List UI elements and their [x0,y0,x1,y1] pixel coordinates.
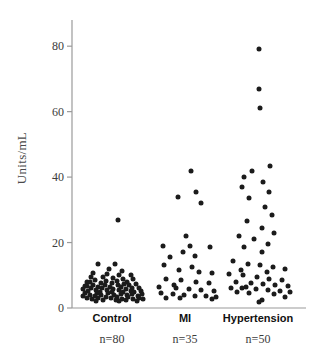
data-point [239,184,244,189]
data-point [247,291,252,296]
data-point [160,243,165,248]
data-point [272,292,277,297]
data-point [278,288,283,293]
data-point [267,276,272,281]
data-point [184,234,189,239]
data-point [257,300,262,305]
y-axis-label: Units/mL [14,108,30,208]
data-point [186,287,191,292]
y-axis-tick-label: 60 [40,106,64,118]
data-point [179,278,184,283]
data-point [192,253,197,258]
data-point [283,294,288,299]
data-point [227,271,232,276]
y-axis-tick-label: 20 [40,237,64,249]
data-point [260,282,265,287]
data-point [141,297,146,302]
data-point [269,212,274,217]
data-point [93,299,98,304]
data-point [241,273,246,278]
data-point [264,270,269,275]
data-point [259,250,264,255]
data-point [258,263,263,268]
data-point [194,279,199,284]
data-point [96,261,101,266]
data-point [265,242,270,247]
data-point [267,189,272,194]
data-point [228,285,233,290]
data-point [206,281,211,286]
data-point [190,265,195,270]
data-point [199,201,204,206]
data-point [283,266,288,271]
data-point [272,230,277,235]
data-point [263,204,268,209]
data-point [233,279,238,284]
data-point [252,237,257,242]
group-label-mi: MI [179,312,191,324]
data-point [285,283,290,288]
data-point [156,284,161,289]
data-point [260,180,265,185]
data-point [265,288,270,293]
data-point [210,296,215,301]
data-point [268,163,273,168]
data-point [257,86,262,91]
data-point [161,263,166,268]
data-point [279,278,284,283]
y-axis-tick-marks [67,46,72,308]
data-point [170,292,175,297]
data-point [288,289,293,294]
data-point [204,294,209,299]
data-point [210,270,215,275]
data-point [116,217,121,222]
data-point [247,196,252,201]
data-point [273,283,278,288]
data-point [211,288,216,293]
data-point [246,261,251,266]
data-point [178,296,183,301]
data-point [134,298,139,303]
data-point [117,299,122,304]
data-point [254,274,259,279]
dot-plot-figure: Units/mL 020406080 Controln=80MIn=35Hype… [0,0,319,358]
y-axis-tick-label: 80 [40,40,64,52]
data-point [239,286,244,291]
data-point [199,288,204,293]
y-axis-tick-label: 40 [40,171,64,183]
data-point [207,245,212,250]
data-point [164,276,169,281]
group-count-hypertension: n=50 [246,332,271,347]
data-point [253,287,258,292]
data-point [248,281,253,286]
data-point [101,297,106,302]
data-point [113,262,118,267]
data-point [164,295,169,300]
group-label-control: Control [92,312,131,324]
data-point [196,270,201,275]
data-point [257,47,262,52]
data-point [192,293,197,298]
data-point [174,286,179,291]
data-point [244,219,249,224]
data-point [231,258,236,263]
y-axis-tick-label: 0 [40,302,64,314]
data-point [242,245,247,250]
data-point [180,250,185,255]
group-count-mi: n=35 [173,332,198,347]
data-point [249,168,254,173]
y-axis-tick-labels: 020406080 [40,0,64,358]
data-point [259,225,264,230]
data-point [270,265,275,270]
data-point [159,291,164,296]
data-point [258,106,263,111]
data-point [176,268,181,273]
data-point [242,175,247,180]
data-point [234,290,239,295]
group-label-hypertension: Hypertension [223,312,293,324]
data-point [237,234,242,239]
data-point [189,169,194,174]
data-point [187,244,192,249]
data-point [168,255,173,260]
data-point [175,194,180,199]
